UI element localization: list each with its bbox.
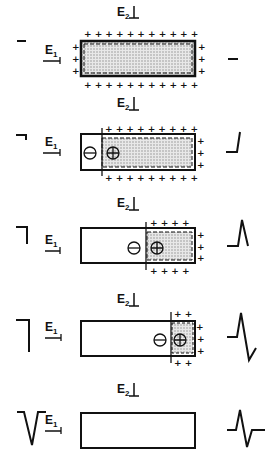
- right-trace-icon: [226, 132, 240, 152]
- fiber-box: [81, 413, 195, 448]
- svg-text:+ + + + + + + + + + +: + + + + + + + + + + +: [84, 80, 198, 90]
- e1-label: E1: [45, 413, 58, 429]
- svg-text:+: +: [197, 253, 205, 263]
- left-trace-icon: [16, 135, 26, 140]
- svg-text:+: +: [72, 42, 80, 52]
- e2-electrode-icon: [129, 6, 139, 18]
- svg-text:+: +: [198, 66, 206, 76]
- e2-label: E2: [117, 382, 130, 398]
- e1-label: E1: [45, 233, 58, 249]
- svg-text:+ + + + + + + + +: + + + + + + + + +: [105, 173, 198, 183]
- e1-label: E1: [45, 43, 58, 59]
- svg-text:+: +: [197, 346, 205, 356]
- svg-text:+ + + +: + + + +: [150, 218, 190, 228]
- svg-text:+: +: [197, 160, 205, 170]
- svg-text:+: +: [197, 136, 205, 146]
- svg-text:+: +: [197, 242, 205, 252]
- stage-1: E2 E1 + + + + + + + + + + + + + + + + + …: [17, 5, 238, 90]
- svg-text:+: +: [72, 54, 80, 64]
- svg-text:+ +: + +: [174, 358, 192, 368]
- svg-text:+ + + + + + + + + + +: + + + + + + + + + + +: [84, 29, 198, 39]
- e2-label: E2: [117, 5, 130, 21]
- fiber-box: [81, 41, 195, 76]
- e1-label: E1: [45, 320, 58, 336]
- svg-text:+: +: [72, 66, 80, 76]
- svg-text:+: +: [197, 334, 205, 344]
- right-trace-icon: [227, 220, 248, 246]
- e1-label: E1: [45, 135, 58, 151]
- svg-text:+: +: [197, 148, 205, 158]
- svg-text:+: +: [198, 54, 206, 64]
- right-trace-icon: [227, 313, 256, 360]
- e2-label: E2: [117, 292, 130, 308]
- left-trace-icon: [16, 227, 27, 244]
- diagram-canvas: E2 E1 + + + + + + + + + + + + + + + + + …: [0, 0, 271, 455]
- svg-text:+ + + +: + + + +: [150, 266, 190, 276]
- left-trace-icon: [17, 412, 46, 445]
- left-trace-icon: [16, 320, 29, 352]
- svg-text:+: +: [198, 42, 206, 52]
- svg-text:+: +: [197, 230, 205, 240]
- stage-4: E2 E1 + + + + +++: [16, 292, 256, 368]
- e2-label: E2: [117, 196, 130, 212]
- e2-label: E2: [117, 96, 130, 112]
- stage-3: E2 E1 + + + + + + + + +++: [16, 196, 248, 276]
- stage-2: E2 E1 + + + + + + + + + + + + + + + + + …: [16, 96, 240, 183]
- right-trace-icon: [227, 410, 265, 447]
- svg-text:+: +: [196, 322, 204, 332]
- svg-text:+ +: + +: [174, 309, 192, 319]
- stage-5: E2 E1: [17, 382, 265, 448]
- svg-text:+ + + + + + + + +: + + + + + + + + +: [105, 124, 198, 134]
